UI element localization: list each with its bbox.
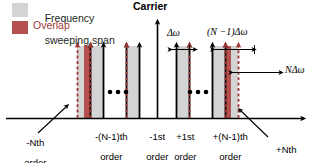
n-delta-omega-label: NΔω xyxy=(285,65,305,76)
ellipsis-dots-left xyxy=(108,90,129,95)
order-label-plus-1st: +1st order xyxy=(159,122,201,163)
ellipsis-dots-right xyxy=(188,90,209,95)
carrier-label: Carrier xyxy=(133,1,167,12)
order-plus-1st-line2: order xyxy=(174,151,196,162)
n-minus-1-delta-omega-label: (N −1)Δω xyxy=(207,27,248,38)
delta-omega-label: Δω xyxy=(167,28,180,39)
figure-root: Frequency sweeping span Overlap Carrier … xyxy=(0,0,315,163)
order-minus-n1th-line2: order xyxy=(100,151,122,162)
order-plus-n1th-line1: +(N-1)th xyxy=(213,131,248,142)
legend-swatch-overlap xyxy=(12,21,28,34)
order-label-plus-n-minus-1th: +(N-1)th order xyxy=(197,122,253,163)
legend-swatch-sweep-span xyxy=(12,3,28,17)
order-minus-n1th-line1: -(N-1)th xyxy=(95,131,128,142)
legend-sweep-line2: sweeping span xyxy=(45,34,115,46)
order-minus-nth-line1: -Nth xyxy=(26,137,44,148)
order-label-plus-nth: +Nth order xyxy=(257,135,305,163)
order-minus-nth-line2: order xyxy=(24,157,46,163)
order-plus-1st-line1: +1st xyxy=(176,131,194,142)
order-plus-nth-line1: +Nth xyxy=(276,144,296,155)
legend-label-overlap: Overlap xyxy=(33,20,70,31)
order-label-minus-n-minus-1th: -(N-1)th order xyxy=(78,122,134,163)
order-label-minus-nth: -Nth order xyxy=(6,128,54,163)
order-plus-n1th-line2: order xyxy=(219,151,241,162)
